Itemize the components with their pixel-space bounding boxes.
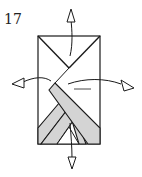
- origami-diagram: [0, 0, 142, 177]
